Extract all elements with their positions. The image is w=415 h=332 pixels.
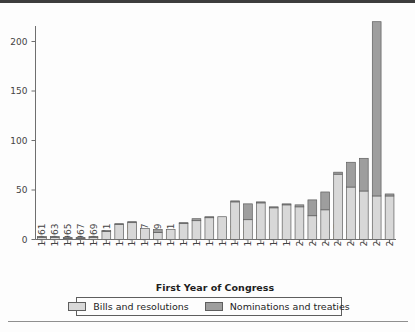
bar-segment-bills [153, 233, 162, 240]
chart-legend: Bills and resolutions Nominations and tr… [76, 297, 342, 316]
bar-segment-bills [385, 196, 394, 240]
bar-segment-bills [231, 202, 240, 240]
bar-segment-nominations [321, 192, 330, 210]
bar-segment-nominations [76, 238, 85, 239]
bar-segment-bills [372, 196, 381, 240]
legend-swatch-bills-icon [68, 302, 86, 311]
bar-segment-bills [218, 217, 227, 240]
figure-container: 050100150200 196119631965196719691971197… [0, 0, 415, 332]
bar-segment-nominations [63, 238, 72, 239]
y-axis: 050100150200 [10, 26, 35, 245]
bar-segment-bills [269, 208, 278, 240]
bar-segment-nominations [282, 204, 291, 205]
bar-segment-nominations [372, 22, 381, 196]
bar-segment-nominations [295, 205, 304, 207]
x-tick-label: 1965 [63, 224, 73, 247]
bar-segment-bills [256, 203, 265, 240]
bar-segment-nominations [153, 230, 162, 233]
bar-segment-nominations [385, 194, 394, 196]
bar-segment-nominations [38, 237, 47, 238]
bar-segment-nominations [115, 224, 124, 225]
y-tick-label: 100 [10, 136, 27, 146]
bar-segment-nominations [128, 222, 137, 223]
x-tick-label: 1969 [89, 223, 99, 246]
bar-segment-bills [244, 220, 253, 240]
x-tick-label: 1961 [37, 224, 47, 247]
y-tick-label: 50 [16, 185, 28, 195]
bar-segment-bills [115, 225, 124, 240]
y-tick-label: 200 [10, 37, 27, 47]
bar-segment-nominations [192, 219, 201, 221]
bar-segment-bills [321, 210, 330, 240]
bar-segment-nominations [308, 200, 317, 216]
bar-segment-nominations [256, 202, 265, 203]
x-tick-label: 1967 [76, 224, 86, 247]
x-axis-title: First Year of Congress [156, 282, 275, 293]
bar-segment-bills [308, 216, 317, 240]
bar-segment-bills [295, 207, 304, 240]
bar-segment-nominations [334, 172, 343, 174]
bar-segment-nominations [359, 158, 368, 191]
legend-label-bills: Bills and resolutions [93, 301, 188, 312]
bar-segment-nominations [179, 223, 188, 224]
bar-segment-bills [141, 229, 150, 240]
bar-segment-bills [205, 218, 214, 240]
legend-entry-bills: Bills and resolutions [68, 301, 188, 312]
bar-segment-nominations [231, 201, 240, 202]
plot-area: 050100150200 196119631965196719691971197… [0, 0, 415, 332]
legend-swatch-nominations-icon [205, 302, 223, 311]
bar-segment-nominations [244, 204, 253, 220]
bar-series-group [38, 22, 394, 240]
x-tick-label: 1963 [50, 224, 60, 247]
bar-segment-bills [128, 223, 137, 240]
legend-entry-nominations: Nominations and treaties [205, 301, 350, 312]
y-tick-label: 150 [10, 86, 27, 96]
bar-segment-bills [192, 221, 201, 240]
bar-segment-nominations [50, 237, 59, 238]
bar-segment-nominations [102, 231, 111, 232]
bar-segment-nominations [89, 237, 98, 238]
legend-label-nominations: Nominations and treaties [230, 301, 350, 312]
bar-segment-bills [102, 232, 111, 240]
bar-segment-bills [347, 187, 356, 239]
y-tick-label: 0 [22, 235, 28, 245]
bar-segment-bills [166, 230, 175, 240]
bar-segment-bills [334, 174, 343, 239]
stacked-bar-chart: 050100150200 196119631965196719691971197… [0, 0, 415, 332]
bar-segment-nominations [205, 217, 214, 218]
bar-segment-nominations [347, 162, 356, 187]
bar-segment-bills [359, 191, 368, 240]
bar-segment-bills [282, 205, 291, 240]
bar-segment-bills [179, 224, 188, 240]
bar-segment-nominations [269, 207, 278, 208]
